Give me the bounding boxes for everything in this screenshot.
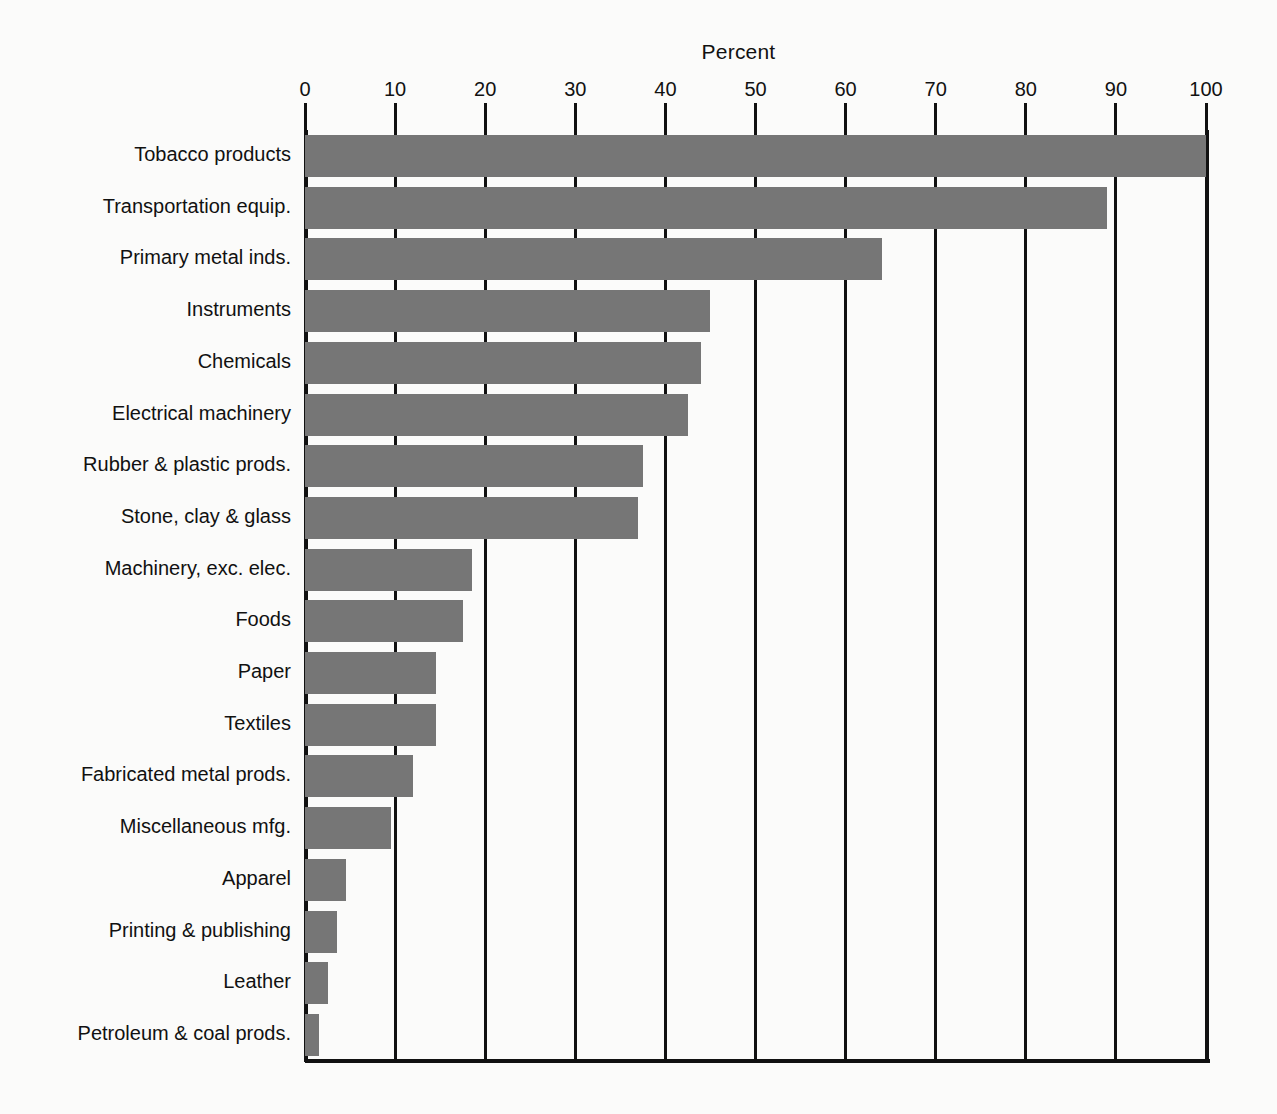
bar xyxy=(305,238,882,280)
gridline-90 xyxy=(1114,130,1117,1062)
bar xyxy=(305,600,463,642)
x-tick-label-70: 70 xyxy=(925,78,947,101)
bar xyxy=(305,652,436,694)
category-label: Primary metal inds. xyxy=(0,246,291,269)
x-tick-label-50: 50 xyxy=(744,78,766,101)
x-tick-label-30: 30 xyxy=(564,78,586,101)
x-tick-label-10: 10 xyxy=(384,78,406,101)
x-tick-20 xyxy=(484,103,487,131)
bar xyxy=(305,704,436,746)
category-label: Transportation equip. xyxy=(0,195,291,218)
category-label: Rubber & plastic prods. xyxy=(0,453,291,476)
category-label: Apparel xyxy=(0,867,291,890)
category-label: Instruments xyxy=(0,298,291,321)
bar xyxy=(305,342,701,384)
bar xyxy=(305,187,1107,229)
axis-title-text: Percent xyxy=(702,40,776,63)
gridline-80 xyxy=(1024,130,1027,1062)
category-label: Textiles xyxy=(0,712,291,735)
category-labels: Tobacco productsTransportation equip.Pri… xyxy=(0,0,291,1114)
gridline-70 xyxy=(934,130,937,1062)
category-label: Stone, clay & glass xyxy=(0,505,291,528)
category-label: Paper xyxy=(0,660,291,683)
bar xyxy=(305,755,413,797)
x-tick-label-90: 90 xyxy=(1105,78,1127,101)
category-label: Chemicals xyxy=(0,350,291,373)
x-tick-label-60: 60 xyxy=(834,78,856,101)
category-label: Fabricated metal prods. xyxy=(0,763,291,786)
category-label: Leather xyxy=(0,970,291,993)
bar xyxy=(305,135,1206,177)
x-tick-label-20: 20 xyxy=(474,78,496,101)
bar xyxy=(305,807,391,849)
category-label: Machinery, exc. elec. xyxy=(0,557,291,580)
x-tick-70 xyxy=(934,103,937,131)
x-tick-100 xyxy=(1205,103,1208,131)
bar xyxy=(305,1014,319,1056)
x-tick-0 xyxy=(304,103,307,131)
x-tick-label-40: 40 xyxy=(654,78,676,101)
x-tick-60 xyxy=(844,103,847,131)
x-tick-10 xyxy=(394,103,397,131)
category-label: Tobacco products xyxy=(0,143,291,166)
category-label: Electrical machinery xyxy=(0,402,291,425)
bar xyxy=(305,911,337,953)
plot-area xyxy=(305,130,1206,1062)
x-tick-30 xyxy=(574,103,577,131)
bar xyxy=(305,394,688,436)
x-tick-50 xyxy=(754,103,757,131)
bar xyxy=(305,497,638,539)
x-tick-label-0: 0 xyxy=(299,78,310,101)
bar-chart: Percent 0102030405060708090100 Tobacco p… xyxy=(0,0,1277,1114)
bar xyxy=(305,549,472,591)
gridline-100 xyxy=(1205,130,1209,1062)
x-tick-label-100: 100 xyxy=(1189,78,1222,101)
bar xyxy=(305,290,710,332)
bar xyxy=(305,962,328,1004)
category-label: Petroleum & coal prods. xyxy=(0,1022,291,1045)
x-tick-90 xyxy=(1114,103,1117,131)
bar xyxy=(305,859,346,901)
x-tick-40 xyxy=(664,103,667,131)
x-axis-line xyxy=(305,1059,1210,1063)
x-tick-label-80: 80 xyxy=(1015,78,1037,101)
category-label: Miscellaneous mfg. xyxy=(0,815,291,838)
category-label: Foods xyxy=(0,608,291,631)
category-label: Printing & publishing xyxy=(0,919,291,942)
bar xyxy=(305,445,643,487)
x-tick-80 xyxy=(1024,103,1027,131)
